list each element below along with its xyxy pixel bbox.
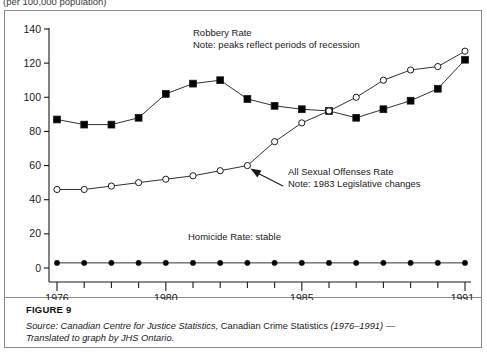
data-point-marker bbox=[81, 121, 88, 128]
data-point-marker bbox=[54, 186, 60, 192]
data-point-marker bbox=[462, 56, 469, 63]
x-axis-tick-label: 1991 bbox=[451, 292, 475, 300]
series-line bbox=[57, 60, 465, 125]
data-point-marker bbox=[108, 183, 114, 189]
data-point-marker bbox=[271, 102, 278, 109]
y-axis-tick-label: 20 bbox=[29, 227, 41, 239]
source-title: Canadian Crime Statistics bbox=[221, 321, 328, 331]
data-point-marker bbox=[163, 260, 168, 265]
source-years: (1976–1991) bbox=[330, 321, 383, 331]
data-point-marker bbox=[108, 121, 115, 128]
series-homicide-rate bbox=[54, 260, 467, 265]
data-point-marker bbox=[354, 260, 359, 265]
data-point-marker bbox=[381, 260, 386, 265]
data-point-marker bbox=[326, 108, 332, 114]
source-prefix: Source: Canadian Centre for Justice Stat… bbox=[26, 321, 218, 331]
figure-source: Source: Canadian Centre for Justice Stat… bbox=[26, 320, 471, 345]
figure-9-container: (per 100,000 population) 020406080100120… bbox=[0, 0, 487, 354]
data-point-marker bbox=[163, 176, 169, 182]
data-point-marker bbox=[54, 116, 61, 123]
data-point-marker bbox=[190, 260, 195, 265]
annotation-homicide: Homicide Rate: stable bbox=[188, 231, 281, 243]
data-point-marker bbox=[298, 106, 305, 113]
y-axis-tick-label: 0 bbox=[35, 262, 41, 274]
data-point-marker bbox=[353, 114, 360, 121]
data-point-marker bbox=[54, 260, 59, 265]
data-point-marker bbox=[136, 180, 142, 186]
data-point-marker bbox=[109, 260, 114, 265]
data-point-marker bbox=[218, 260, 223, 265]
data-point-marker bbox=[299, 120, 305, 126]
y-axis-tick-label: 40 bbox=[29, 193, 41, 205]
data-point-marker bbox=[244, 162, 250, 168]
data-point-marker bbox=[380, 77, 386, 83]
data-point-marker bbox=[353, 94, 359, 100]
y-axis-tick-label: 80 bbox=[29, 125, 41, 137]
data-point-marker bbox=[245, 260, 250, 265]
data-point-marker bbox=[408, 260, 413, 265]
data-point-marker bbox=[217, 168, 223, 174]
source-line-2: Translated to graph by JHS Ontario. bbox=[26, 332, 471, 344]
data-point-marker bbox=[217, 77, 224, 84]
data-point-marker bbox=[272, 139, 278, 145]
data-point-marker bbox=[81, 186, 87, 192]
figure-label: FIGURE 9 bbox=[26, 304, 71, 315]
y-axis-tick-label: 100 bbox=[23, 91, 41, 103]
y-axis-tick-label: 120 bbox=[23, 57, 41, 69]
x-axis-tick-label: 1976 bbox=[45, 292, 69, 300]
data-point-marker bbox=[190, 80, 197, 87]
data-point-marker bbox=[434, 85, 441, 92]
data-point-marker bbox=[82, 260, 87, 265]
annotation-robbery-title: Robbery Rate bbox=[193, 27, 360, 39]
data-point-marker bbox=[462, 260, 467, 265]
data-point-marker bbox=[380, 106, 387, 113]
annotation-leader-arrow bbox=[250, 169, 283, 186]
data-point-marker bbox=[462, 48, 468, 54]
data-point-marker bbox=[136, 260, 141, 265]
x-axis-tick-label: 1985 bbox=[290, 292, 314, 300]
data-point-marker bbox=[272, 260, 277, 265]
source-dash: — bbox=[386, 321, 395, 331]
annotation-homicide-note: Homicide Rate: stable bbox=[188, 231, 281, 243]
data-point-marker bbox=[162, 90, 169, 97]
annotation-robbery: Robbery Rate Note: peaks reflect periods… bbox=[193, 27, 360, 50]
data-point-marker bbox=[408, 67, 414, 73]
annotation-sexual-offenses: All Sexual Offenses Rate Note: 1983 Legi… bbox=[288, 166, 421, 189]
data-point-marker bbox=[244, 96, 251, 103]
annotation-sexual-title: All Sexual Offenses Rate bbox=[288, 166, 421, 178]
data-point-marker bbox=[299, 260, 304, 265]
leader-arrowhead bbox=[250, 169, 261, 178]
annotation-sexual-note: Note: 1983 Legislative changes bbox=[288, 178, 421, 190]
series-robbery-rate bbox=[54, 56, 469, 128]
data-point-marker bbox=[407, 97, 414, 104]
x-axis-tick-label: 1980 bbox=[154, 292, 178, 300]
y-axis-tick-label: 60 bbox=[29, 159, 41, 171]
data-point-marker bbox=[135, 114, 142, 121]
data-point-marker bbox=[326, 260, 331, 265]
data-point-marker bbox=[435, 260, 440, 265]
annotation-robbery-note: Note: peaks reflect periods of recession bbox=[193, 39, 360, 51]
data-point-marker bbox=[435, 63, 441, 69]
y-axis-tick-label: 140 bbox=[23, 23, 41, 35]
data-point-marker bbox=[190, 173, 196, 179]
